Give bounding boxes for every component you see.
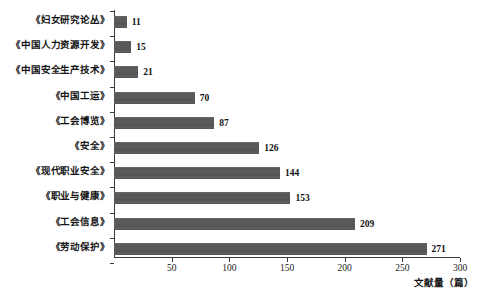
bar [114, 117, 214, 129]
bar-value-label: 87 [219, 118, 229, 128]
y-axis-tick [110, 137, 114, 138]
y-axis-tick [110, 112, 114, 113]
bar-value-label: 153 [295, 193, 309, 203]
x-axis-tick-label: 300 [453, 263, 467, 273]
category-axis-labels: 《妇女研究论丛》《中国人力资源开发》《中国安全生产技术》《中国工运》《工会博览》… [0, 0, 110, 296]
y-axis-tick [110, 61, 114, 62]
category-label: 《现代职业安全》 [0, 166, 110, 177]
bar-value-label: 126 [264, 143, 278, 153]
bar-value-label: 11 [132, 17, 141, 27]
x-axis-title: 文献量（篇） [414, 275, 474, 289]
category-label: 《中国工运》 [0, 91, 110, 102]
bar [114, 142, 259, 154]
category-label: 《劳动保护》 [0, 242, 110, 253]
x-axis-tick-label: 200 [338, 263, 352, 273]
y-axis-tick [110, 87, 114, 88]
bar [114, 66, 138, 78]
x-axis-tick-label: 50 [167, 263, 177, 273]
category-label: 《妇女研究论丛》 [0, 15, 110, 26]
bar-chart: 《妇女研究论丛》《中国人力资源开发》《中国安全生产技术》《中国工运》《工会博览》… [0, 0, 486, 296]
bar-value-label: 15 [136, 42, 146, 52]
category-label: 《中国人力资源开发》 [0, 40, 110, 51]
bar [114, 192, 290, 204]
bar-value-label: 21 [143, 67, 153, 77]
plot-area: 50100150200250300 1115217087126144153209… [114, 0, 486, 296]
bar [114, 218, 355, 230]
category-label: 《工会博览》 [0, 116, 110, 127]
category-label: 《安全》 [0, 141, 110, 152]
x-axis-tick [229, 258, 230, 262]
y-axis-tick [110, 162, 114, 163]
category-label: 《工会信息》 [0, 217, 110, 228]
y-axis-tick [110, 263, 114, 264]
bar [114, 92, 195, 104]
bar [114, 41, 131, 53]
x-axis-tick-label: 150 [280, 263, 294, 273]
x-axis-tick [345, 258, 346, 262]
category-label: 《中国安全生产技术》 [0, 65, 110, 76]
bar [114, 243, 427, 255]
bar-value-label: 144 [285, 168, 299, 178]
bar-value-label: 70 [200, 93, 210, 103]
category-label: 《职业与健康》 [0, 191, 110, 202]
y-axis-tick [110, 213, 114, 214]
bar-value-label: 209 [360, 219, 374, 229]
y-axis-tick [110, 187, 114, 188]
y-axis-tick [110, 36, 114, 37]
y-axis-tick [110, 11, 114, 12]
bar [114, 167, 280, 179]
x-axis-tick-label: 250 [395, 263, 409, 273]
y-axis-tick [110, 238, 114, 239]
bar-value-label: 271 [432, 244, 446, 254]
x-axis-tick [172, 258, 173, 262]
x-axis-tick [460, 258, 461, 262]
x-axis-tick-label: 100 [222, 263, 236, 273]
bar [114, 16, 127, 28]
x-axis-tick [402, 258, 403, 262]
x-axis-tick [287, 258, 288, 262]
